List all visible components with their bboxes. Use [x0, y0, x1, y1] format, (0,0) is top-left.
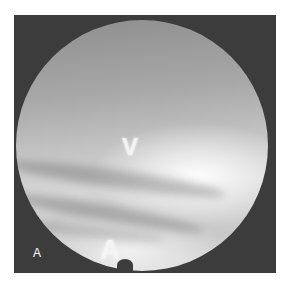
image-frame	[14, 15, 276, 273]
panel-label: A	[33, 247, 41, 259]
marker-v-label: V	[122, 135, 138, 159]
endoscopic-view-disc	[16, 20, 268, 271]
marker-a-label: A	[100, 236, 120, 264]
